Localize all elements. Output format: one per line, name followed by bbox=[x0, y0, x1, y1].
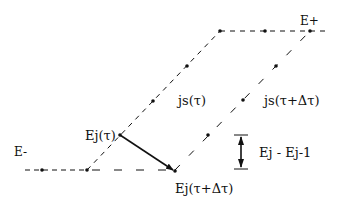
point-dot bbox=[241, 98, 245, 102]
label-energy-gap: Ej - Ej-1 bbox=[259, 145, 311, 160]
label-ej-tau-dt: Ej(τ+Δτ) bbox=[175, 181, 233, 196]
label-js-tau: js(τ) bbox=[176, 93, 206, 108]
point-dot bbox=[274, 64, 278, 68]
label-js-tau-dt: js(τ+Δτ) bbox=[262, 93, 320, 108]
point-dot bbox=[263, 29, 267, 33]
label-ej-tau: Ej(τ) bbox=[85, 128, 116, 143]
step-shift-diagram: E+ E- js(τ) js(τ+Δτ) Ej(τ) Ej(τ+Δτ) Ej -… bbox=[0, 0, 338, 203]
point-dot bbox=[206, 133, 210, 137]
energy-gap-indicator bbox=[234, 135, 248, 169]
arrow-down-icon bbox=[238, 159, 244, 168]
label-e-plus: E+ bbox=[300, 14, 319, 28]
point-dot bbox=[218, 29, 222, 33]
label-e-minus: E- bbox=[14, 145, 27, 159]
shift-arrow bbox=[120, 135, 173, 170]
point-dot bbox=[85, 168, 89, 172]
point-dot bbox=[151, 99, 155, 103]
arrow-up-icon bbox=[238, 136, 244, 145]
point-dot bbox=[40, 168, 44, 172]
point-dot bbox=[185, 64, 189, 68]
point-dot-ej-tau-dt bbox=[173, 169, 177, 173]
